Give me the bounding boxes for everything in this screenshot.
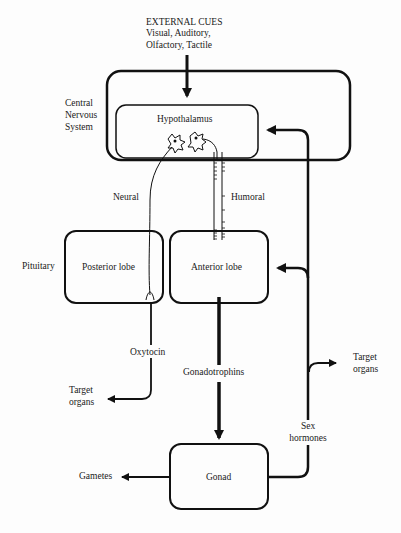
neuron-icon-1 bbox=[168, 134, 185, 153]
cns-box bbox=[107, 71, 350, 160]
external-cues-line2: Olfactory, Tactile bbox=[146, 40, 212, 51]
anterior-lobe-label: Anterior lobe bbox=[191, 262, 242, 273]
sex-hormone-target-line2: organs bbox=[353, 364, 378, 375]
oxytocin-target-line2: organs bbox=[69, 397, 94, 408]
gonad-label: Gonad bbox=[206, 472, 231, 483]
sex-hormones-line1: Sex bbox=[290, 421, 326, 432]
reproductive-endocrine-diagram: EXTERNAL CUES Visual, Auditory, Olfactor… bbox=[0, 0, 401, 533]
cns-label-line3: System bbox=[65, 122, 93, 133]
sex-hormones-line2: hormones bbox=[284, 433, 332, 444]
oxytocin-label: Oxytocin bbox=[130, 347, 165, 358]
hypothalamus-label: Hypothalamus bbox=[157, 114, 212, 125]
posterior-lobe-label: Posterior lobe bbox=[82, 262, 135, 273]
gonadotrophins-label: Gonadotrophins bbox=[183, 367, 244, 378]
hypothalamus-box bbox=[116, 105, 258, 158]
gametes-label: Gametes bbox=[79, 471, 112, 482]
humoral-label: Humoral bbox=[231, 192, 265, 203]
external-cues-title: EXTERNAL CUES bbox=[146, 17, 222, 28]
sex-hormone-target-line1: Target bbox=[353, 352, 377, 363]
cns-label-line2: Nervous bbox=[65, 110, 97, 121]
oxytocin-target-line1: Target bbox=[69, 385, 93, 396]
neuron-icon-2 bbox=[188, 132, 206, 152]
external-cues-line1: Visual, Auditory, bbox=[146, 28, 211, 39]
neural-label: Neural bbox=[113, 192, 139, 203]
cns-label-line1: Central bbox=[65, 98, 93, 109]
pituitary-label: Pituitary bbox=[22, 261, 55, 272]
